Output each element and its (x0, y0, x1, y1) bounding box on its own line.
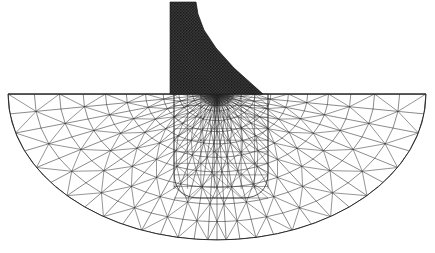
dam-structure-group (68, 0, 423, 96)
fem-mesh-figure (0, 0, 435, 253)
foundation-mesh-group (8, 94, 426, 240)
mesh-canvas (0, 0, 435, 253)
